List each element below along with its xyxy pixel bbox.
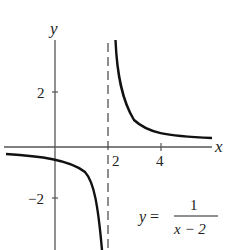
x-tick-label-4: 4 [156,153,164,169]
x-axis-label: x [214,137,223,156]
x-tick-label-2: 2 [112,153,120,169]
function-graph: y x 2 4 2 −2 y = 1 x − 2 [0,0,229,250]
y-axis-label: y [48,19,58,38]
curve-right-branch [116,40,213,138]
y-tick-label-2: 2 [37,85,45,101]
equation-denominator: x − 2 [173,221,206,237]
equation-numerator: 1 [190,197,198,213]
y-tick-label-neg2: −2 [28,191,44,207]
equation-annotation: y = 1 x − 2 [137,197,218,237]
equation-lhs: y = [137,208,159,226]
curve-left-branch [6,154,102,250]
